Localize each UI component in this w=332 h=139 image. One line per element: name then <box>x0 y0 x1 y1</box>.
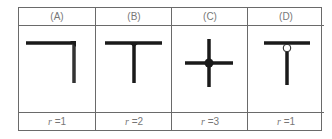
cross-joint-filled-icon <box>172 26 248 114</box>
column-a: (A) r =1 <box>19 8 95 130</box>
column-d: (D) r =1 <box>247 8 324 130</box>
column-header: (C) <box>172 8 248 26</box>
figure-cell <box>96 26 172 114</box>
column-header: (B) <box>96 8 172 26</box>
column-footer: r =1 <box>19 112 95 130</box>
column-header: (D) <box>248 8 324 26</box>
joint-table: (A) r =1 (B) r =2 (C) <box>18 7 322 131</box>
column-footer: r =2 <box>96 112 172 130</box>
column-b: (B) r =2 <box>95 8 172 130</box>
figure-cell <box>172 26 248 114</box>
t-joint-open-circle-icon <box>248 26 324 114</box>
column-footer: r =1 <box>248 112 324 130</box>
column-header: (A) <box>19 8 95 26</box>
column-footer: r =3 <box>172 112 248 130</box>
t-joint-filled-icon <box>96 26 172 114</box>
figure-cell <box>19 26 95 114</box>
column-c: (C) r =3 <box>171 8 248 130</box>
figure-cell <box>248 26 324 114</box>
corner-joint-icon <box>19 26 95 114</box>
